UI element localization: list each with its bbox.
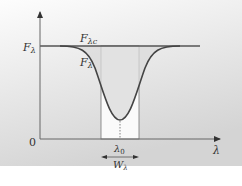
equivalent-width-diagram: Fλ Fλc Fλ 0 λ λ0 Wλ: [0, 0, 242, 186]
diagram-canvas: Fλ Fλc Fλ 0 λ λ0 Wλ: [0, 0, 242, 186]
origin-label: 0: [29, 136, 36, 149]
x-axis-wavelength-label: λ: [212, 144, 220, 157]
